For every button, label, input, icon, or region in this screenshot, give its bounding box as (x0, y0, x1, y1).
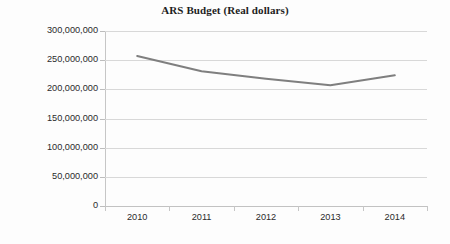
plot-area (105, 31, 427, 206)
y-axis-tick-mark (100, 206, 105, 207)
y-axis-tick-label: 150,000,000 (6, 114, 98, 123)
x-axis-tick-mark (427, 206, 428, 211)
y-axis-tick-mark (100, 31, 105, 32)
series-line-ars-budget (137, 56, 395, 85)
y-axis-tick-label: 0 (6, 201, 98, 210)
y-axis-tick-label: 50,000,000 (6, 172, 98, 181)
x-axis-tick-label: 2012 (234, 212, 298, 228)
y-axis-tick-label: 250,000,000 (6, 55, 98, 64)
y-axis-tick-labels: 300,000,000250,000,000200,000,000150,000… (0, 0, 98, 244)
y-axis-tick-label: 200,000,000 (6, 84, 98, 93)
x-axis-tick-label: 2014 (363, 212, 427, 228)
y-axis-tick-label: 300,000,000 (6, 26, 98, 35)
x-axis-tick-labels: 20102011201220132014 (105, 212, 427, 228)
gridline (105, 206, 427, 207)
y-axis-tick-mark (100, 89, 105, 90)
x-axis-tick-mark (363, 206, 364, 211)
x-axis-tick-label: 2011 (169, 212, 233, 228)
x-axis-tick-mark (105, 206, 106, 211)
x-axis-tick-label: 2013 (298, 212, 362, 228)
y-axis-tick-label: 100,000,000 (6, 143, 98, 152)
x-axis-tick-mark (298, 206, 299, 211)
y-axis-tick-mark (100, 60, 105, 61)
x-axis-tick-label: 2010 (105, 212, 169, 228)
x-axis-tick-mark (234, 206, 235, 211)
chart-figure: ARS Budget (Real dollars) 300,000,000250… (0, 0, 450, 244)
series-line-chart (105, 31, 427, 206)
y-axis-tick-mark (100, 177, 105, 178)
y-axis-tick-mark (100, 119, 105, 120)
y-axis-tick-mark (100, 148, 105, 149)
x-axis-tick-mark (169, 206, 170, 211)
